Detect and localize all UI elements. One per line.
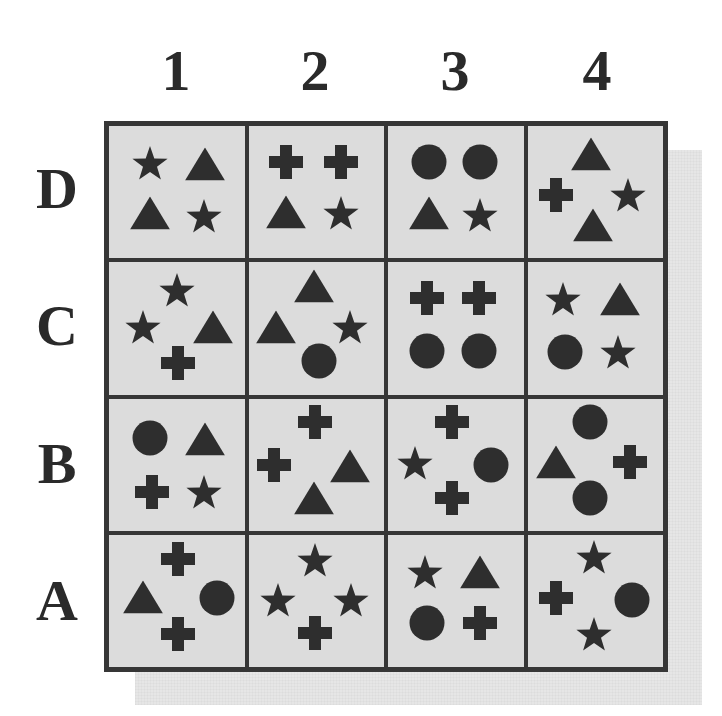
cell-b4 <box>528 399 664 531</box>
row-label-d: D <box>27 160 87 218</box>
star-icon <box>396 445 434 481</box>
star-icon <box>124 309 162 345</box>
column-label-4: 4 <box>567 42 627 100</box>
triangle-icon <box>294 481 334 514</box>
star-icon <box>599 334 637 370</box>
cell-c4 <box>528 262 664 394</box>
cell-d3 <box>388 126 524 258</box>
cross-icon <box>161 346 195 380</box>
star-icon <box>185 474 223 510</box>
cross-icon <box>257 448 291 482</box>
star-icon <box>406 554 444 590</box>
circle-icon <box>462 144 498 180</box>
circle-icon <box>409 333 445 369</box>
triangle-icon <box>573 209 613 242</box>
cross-icon <box>135 475 169 509</box>
column-label-3: 3 <box>425 42 485 100</box>
circle-icon <box>614 582 650 618</box>
triangle-icon <box>571 137 611 170</box>
circle-icon <box>461 333 497 369</box>
star-icon <box>131 145 169 181</box>
star-icon <box>185 198 223 234</box>
cell-a3 <box>388 535 524 667</box>
cross-icon <box>410 281 444 315</box>
star-icon <box>296 542 334 578</box>
cross-icon <box>463 606 497 640</box>
triangle-icon <box>130 197 170 230</box>
circle-icon <box>199 580 235 616</box>
circle-icon <box>572 404 608 440</box>
cross-icon <box>613 445 647 479</box>
star-icon <box>575 539 613 575</box>
cross-icon <box>435 481 469 515</box>
row-label-c: C <box>27 297 87 355</box>
circle-icon <box>473 447 509 483</box>
triangle-icon <box>256 311 296 344</box>
circle-icon <box>409 605 445 641</box>
cell-c2 <box>249 262 385 394</box>
star-icon <box>158 272 196 308</box>
cell-a1 <box>109 535 245 667</box>
cross-icon <box>298 405 332 439</box>
triangle-icon <box>185 423 225 456</box>
triangle-icon <box>600 283 640 316</box>
star-icon <box>575 616 613 652</box>
triangle-icon <box>193 311 233 344</box>
symbol-grid <box>104 121 668 672</box>
triangle-icon <box>123 580 163 613</box>
triangle-icon <box>460 555 500 588</box>
star-icon <box>332 582 370 618</box>
cell-a2 <box>249 535 385 667</box>
triangle-icon <box>185 148 225 181</box>
cross-icon <box>435 405 469 439</box>
circle-icon <box>132 420 168 456</box>
star-icon <box>331 309 369 345</box>
cell-d2 <box>249 126 385 258</box>
cell-b1 <box>109 399 245 531</box>
row-label-b: B <box>27 435 87 493</box>
circle-icon <box>547 334 583 370</box>
cross-icon <box>161 542 195 576</box>
column-label-1: 1 <box>146 42 206 100</box>
star-icon <box>544 281 582 317</box>
circle-icon <box>411 144 447 180</box>
triangle-icon <box>294 270 334 303</box>
row-label-a: A <box>27 572 87 630</box>
cross-icon <box>539 581 573 615</box>
cross-icon <box>269 145 303 179</box>
star-icon <box>322 195 360 231</box>
star-icon <box>609 177 647 213</box>
star-icon <box>259 582 297 618</box>
star-icon <box>461 197 499 233</box>
circle-icon <box>572 480 608 516</box>
triangle-icon <box>266 195 306 228</box>
cross-icon <box>298 616 332 650</box>
cell-d1 <box>109 126 245 258</box>
circle-icon <box>301 343 337 379</box>
cross-icon <box>161 617 195 651</box>
cell-c1 <box>109 262 245 394</box>
cell-a4 <box>528 535 664 667</box>
column-label-2: 2 <box>285 42 345 100</box>
triangle-icon <box>330 449 370 482</box>
cross-icon <box>324 145 358 179</box>
cell-b3 <box>388 399 524 531</box>
cross-icon <box>462 281 496 315</box>
triangle-icon <box>536 445 576 478</box>
cell-d4 <box>528 126 664 258</box>
cross-icon <box>539 178 573 212</box>
triangle-icon <box>409 197 449 230</box>
cell-b2 <box>249 399 385 531</box>
cell-c3 <box>388 262 524 394</box>
